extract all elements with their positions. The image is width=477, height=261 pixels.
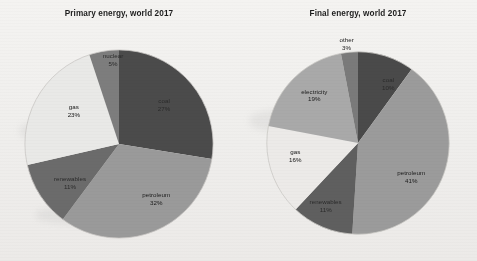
pie-label-renewables: renewables 11%	[54, 175, 86, 191]
chart-title-primary: Primary energy, world 2017	[0, 9, 238, 18]
pie-label-petroleum: petroleum 32%	[142, 191, 170, 207]
pie-primary-svg	[21, 46, 217, 242]
pie-label-renewables: renewables 11%	[310, 198, 342, 214]
pie-final-svg	[263, 48, 453, 238]
figure-page: Primary energy, world 2017 coal 27%	[0, 0, 477, 261]
pie-final: coal 10% petroleum 41% renewables 11% ga…	[263, 48, 453, 238]
pie-label-coal: coal 10%	[382, 76, 395, 92]
chart-primary-energy: Primary energy, world 2017 coal 27%	[0, 0, 238, 261]
chart-title-final: Final energy, world 2017	[239, 9, 477, 18]
pie-label-nuclear: nuclear 5%	[103, 52, 124, 68]
pie-label-petroleum: petroleum 41%	[397, 169, 425, 185]
pie-label-gas: gas 16%	[289, 148, 302, 164]
pie-label-other: other 3%	[339, 36, 353, 52]
chart-final-energy: Final energy, world 2017 coal 10%	[239, 0, 477, 261]
pie-label-coal: coal 27%	[158, 97, 171, 113]
pie-label-electricity: electricity 19%	[301, 88, 327, 104]
pie-label-gas: gas 23%	[68, 103, 81, 119]
pie-primary: coal 27% petroleum 32% renewables 11% ga…	[21, 46, 217, 242]
